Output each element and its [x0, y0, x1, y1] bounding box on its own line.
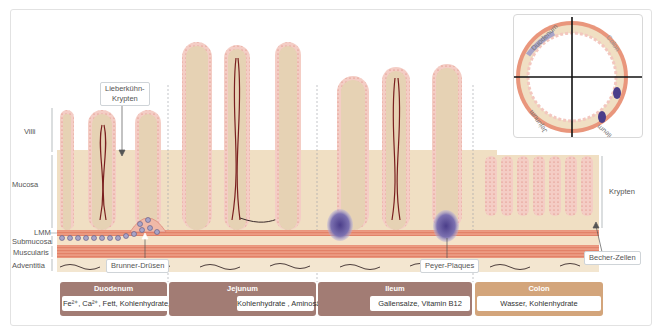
- callout-peyer: Peyer-Plaques: [420, 259, 479, 273]
- section-colon-title: Colon: [475, 282, 603, 295]
- section-duodenum-title: Duodenum: [60, 282, 167, 295]
- layer-muscularis: [57, 245, 599, 258]
- section-jejunum-title: Jejunum: [169, 282, 316, 295]
- label-lmm: LMM: [34, 228, 51, 237]
- label-mucosa: Mucosa: [12, 180, 38, 189]
- callout-lieberkuehn-line1: Lieberkühn-: [105, 84, 145, 94]
- cross-section-inset: Duodenum Colon Jejunum Ileum: [513, 14, 643, 138]
- crypts-colon: [485, 156, 593, 216]
- layer-submucosa: [57, 236, 599, 245]
- section-colon: Colon Wasser, Kohlenhydrate: [475, 282, 603, 316]
- label-submucosa: Submucosa: [12, 237, 52, 246]
- section-ileum-title: Ileum: [318, 282, 472, 295]
- callout-becher: Becher-Zellen: [584, 251, 641, 265]
- callout-brunner: Brunner-Drüsen: [106, 259, 169, 273]
- section-jejunum: Jejunum Kohlenhydrate , Aminosäuren: [169, 282, 316, 316]
- label-adventitia: Adventitia: [12, 261, 45, 270]
- callout-lieberkuehn-line2: Krypten: [105, 94, 145, 104]
- callout-lieberkuehn: Lieberkühn- Krypten: [100, 82, 150, 106]
- peyer-patch-2: [433, 210, 459, 242]
- label-krypten: Krypten: [609, 187, 635, 196]
- label-muscularis: Muscularis: [13, 248, 49, 257]
- section-ileum: Ileum Gallensalze, Vitamin B12: [318, 282, 472, 316]
- villi-ileum: [337, 64, 462, 230]
- label-villi: Villi: [24, 127, 36, 136]
- intestine-cross-section-icon: Duodenum Colon Jejunum Ileum: [514, 15, 642, 137]
- peyer-patch-1: [327, 209, 353, 241]
- section-colon-absorbs: Wasser, Kohlenhydrate: [477, 296, 601, 311]
- section-ileum-absorbs: Gallensalze, Vitamin B12: [370, 296, 470, 311]
- section-jejunum-absorbs: Kohlenhydrate , Aminosäuren: [237, 296, 314, 311]
- section-duodenum: Duodenum Fe²⁺, Ca²⁺, Fett, Kohlenhydrate…: [60, 282, 167, 316]
- villi-jejunum: [182, 42, 301, 230]
